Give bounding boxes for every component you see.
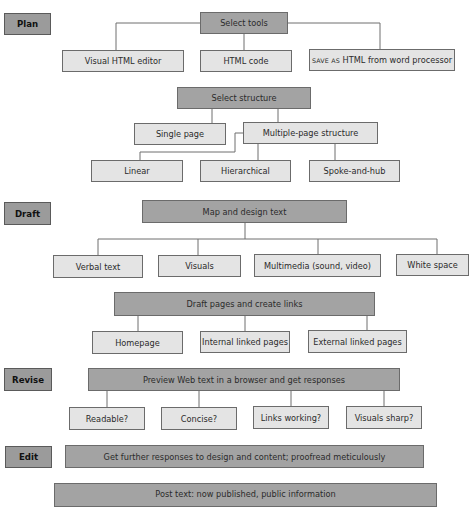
type-hierarchical-label: Hierarchical	[221, 166, 270, 176]
element-white-space-box: White space	[396, 254, 469, 276]
tool-visual-editor-box: Visual HTML editor	[62, 50, 184, 72]
tool-html-code-label: HTML code	[223, 56, 268, 66]
select-tools-box: Select tools	[200, 12, 288, 34]
element-verbal-box: Verbal text	[53, 255, 143, 278]
stage-draft-label: Draft	[15, 209, 40, 219]
stage-revise: Revise	[4, 368, 52, 391]
page-homepage-box: Homepage	[92, 331, 183, 354]
preview-box: Preview Web text in a browser and get re…	[88, 368, 400, 391]
check-concise-box: Concise?	[161, 407, 237, 430]
save-as-smallcaps: SAVE AS	[312, 57, 340, 64]
page-internal-box: Internal linked pages	[200, 331, 290, 353]
tool-html-code-box: HTML code	[200, 50, 292, 72]
stage-plan: Plan	[4, 13, 51, 35]
tool-save-as-box: SAVE AS HTML from word processor	[309, 49, 455, 71]
page-external-box: External linked pages	[308, 330, 407, 353]
edit-further-label: Get further responses to design and cont…	[104, 452, 386, 462]
tool-save-as-label: SAVE AS HTML from word processor	[312, 55, 452, 65]
element-verbal-label: Verbal text	[76, 262, 121, 272]
element-multimedia-box: Multimedia (sound, video)	[254, 254, 381, 277]
draft-pages-label: Draft pages and create links	[187, 299, 303, 309]
save-as-rest: HTML from word processor	[340, 55, 452, 65]
stage-plan-label: Plan	[17, 19, 38, 29]
edit-further-box: Get further responses to design and cont…	[65, 445, 424, 468]
draft-pages-box: Draft pages and create links	[114, 292, 375, 316]
tool-visual-editor-label: Visual HTML editor	[85, 56, 162, 66]
check-readable-label: Readable?	[86, 414, 128, 424]
select-tools-label: Select tools	[220, 18, 268, 28]
type-linear-box: Linear	[91, 160, 183, 182]
stage-edit-label: Edit	[19, 452, 38, 462]
preview-label: Preview Web text in a browser and get re…	[143, 375, 345, 385]
page-internal-label: Internal linked pages	[202, 337, 288, 347]
check-visuals-sharp-label: Visuals sharp?	[355, 413, 414, 423]
type-spoke-hub-label: Spoke-and-hub	[324, 166, 386, 176]
element-multimedia-label: Multimedia (sound, video)	[264, 261, 371, 271]
map-design-box: Map and design text	[142, 200, 347, 223]
page-homepage-label: Homepage	[115, 338, 160, 348]
structure-single-page-label: Single page	[156, 129, 204, 139]
select-structure-box: Select structure	[177, 87, 311, 109]
check-concise-label: Concise?	[181, 414, 217, 424]
select-structure-label: Select structure	[211, 93, 276, 103]
check-readable-box: Readable?	[69, 407, 145, 430]
check-links-box: Links working?	[253, 406, 329, 429]
element-visuals-label: Visuals	[185, 261, 214, 271]
element-visuals-box: Visuals	[158, 255, 241, 277]
type-spoke-hub-box: Spoke-and-hub	[309, 160, 400, 182]
stage-draft: Draft	[4, 202, 51, 225]
post-text-box: Post text: now published, public informa…	[54, 483, 437, 507]
type-hierarchical-box: Hierarchical	[200, 160, 291, 182]
stage-edit: Edit	[5, 446, 52, 468]
structure-multiple-page-label: Multiple-page structure	[263, 128, 359, 138]
check-links-label: Links working?	[261, 413, 321, 423]
structure-single-page-box: Single page	[134, 123, 226, 145]
page-external-label: External linked pages	[313, 337, 401, 347]
stage-revise-label: Revise	[12, 375, 44, 385]
structure-multiple-page-box: Multiple-page structure	[243, 122, 378, 144]
element-white-space-label: White space	[407, 260, 457, 270]
type-linear-label: Linear	[124, 166, 149, 176]
map-design-label: Map and design text	[203, 207, 287, 217]
check-visuals-sharp-box: Visuals sharp?	[346, 406, 422, 429]
post-text-label: Post text: now published, public informa…	[155, 489, 335, 499]
